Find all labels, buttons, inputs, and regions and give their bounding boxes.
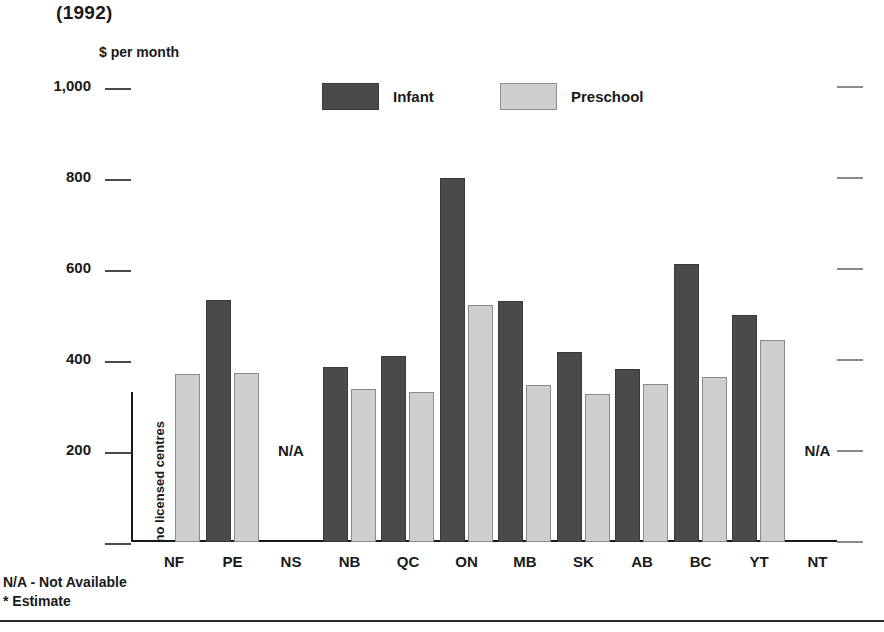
x-axis-label-nb: NB (321, 553, 379, 570)
bar-group-pe: PE (204, 60, 262, 542)
bar-preschool-ab[interactable] (643, 384, 668, 542)
x-axis-label-qc: QC (379, 553, 437, 570)
bar-infant-sk[interactable] (557, 352, 582, 542)
bar-infant-yt[interactable] (732, 315, 757, 543)
y-tick-label: 800 (66, 168, 91, 185)
x-axis-label-sk: SK (555, 553, 613, 570)
bar-preschool-on[interactable] (468, 305, 493, 542)
footnote-not-available: N/A - Not Available (3, 573, 127, 592)
y-tick-mark (105, 543, 131, 545)
na-label-ns: N/A (262, 442, 320, 459)
y-tick-label: 200 (66, 441, 91, 458)
bar-preschool-nf[interactable] (175, 374, 200, 542)
footnote-estimate: * Estimate (3, 592, 127, 611)
x-axis-label-on: ON (438, 553, 496, 570)
bar-preschool-qc[interactable] (409, 392, 434, 542)
bar-preschool-sk[interactable] (585, 394, 610, 542)
chart-canvas: (1992) $ per month Infant Preschool 2004… (0, 0, 884, 632)
x-axis-label-pe: PE (204, 553, 262, 570)
y-tick-mark (105, 270, 131, 272)
x-axis-label-ns: NS (262, 553, 320, 570)
plot-area: 2004006008001,000 no licensed centresNFP… (131, 60, 837, 542)
bar-preschool-mb[interactable] (526, 385, 551, 542)
no-licensed-centres-note: no licensed centres (147, 374, 172, 542)
bar-infant-qc[interactable] (381, 356, 406, 542)
y-tick-mark (105, 361, 131, 363)
bar-group-nf: no licensed centresNF (145, 60, 203, 542)
no-licensed-centres-text: no licensed centres (147, 421, 172, 542)
bar-preschool-nb[interactable] (351, 389, 376, 542)
bar-group-bc: BC (672, 60, 730, 542)
x-axis-label-ab: AB (613, 553, 671, 570)
x-axis-label-mb: MB (496, 553, 554, 570)
x-axis-label-nt: NT (789, 553, 847, 570)
y-axis-unit-label: $ per month (99, 44, 179, 60)
y-axis-line (131, 392, 133, 542)
bar-preschool-yt[interactable] (760, 340, 785, 542)
y-tick-mark (105, 179, 131, 181)
y-tick-mark (105, 452, 131, 454)
y-tick-mark (105, 88, 131, 90)
bar-preschool-bc[interactable] (702, 377, 727, 542)
bar-group-on: ON (438, 60, 496, 542)
bar-infant-on[interactable] (440, 178, 465, 542)
bar-group-sk: SK (555, 60, 613, 542)
bar-infant-pe[interactable] (206, 300, 231, 543)
x-axis-label-nf: NF (145, 553, 203, 570)
bar-infant-ab[interactable] (615, 369, 640, 542)
bar-group-yt: YT (730, 60, 788, 542)
bar-preschool-pe[interactable] (234, 373, 259, 542)
bar-group-nb: NB (321, 60, 379, 542)
page-title: (1992) (56, 2, 113, 24)
bar-group-ns: N/ANS (262, 60, 320, 542)
y-tick-label: 1,000 (53, 77, 91, 94)
y-tick-label: 400 (66, 350, 91, 367)
x-axis-label-bc: BC (672, 553, 730, 570)
bar-group-qc: QC (379, 60, 437, 542)
bar-infant-nb[interactable] (323, 367, 348, 542)
bottom-rule (0, 620, 884, 622)
footnotes: N/A - Not Available * Estimate (3, 573, 127, 611)
x-axis-label-yt: YT (730, 553, 788, 570)
bar-infant-mb[interactable] (498, 301, 523, 542)
bar-infant-bc[interactable] (674, 264, 699, 542)
bar-group-mb: MB (496, 60, 554, 542)
y-tick-label: 600 (66, 259, 91, 276)
na-label-nt: N/A (789, 442, 847, 459)
bar-group-ab: AB (613, 60, 671, 542)
bar-group-nt: N/ANT (789, 60, 847, 542)
